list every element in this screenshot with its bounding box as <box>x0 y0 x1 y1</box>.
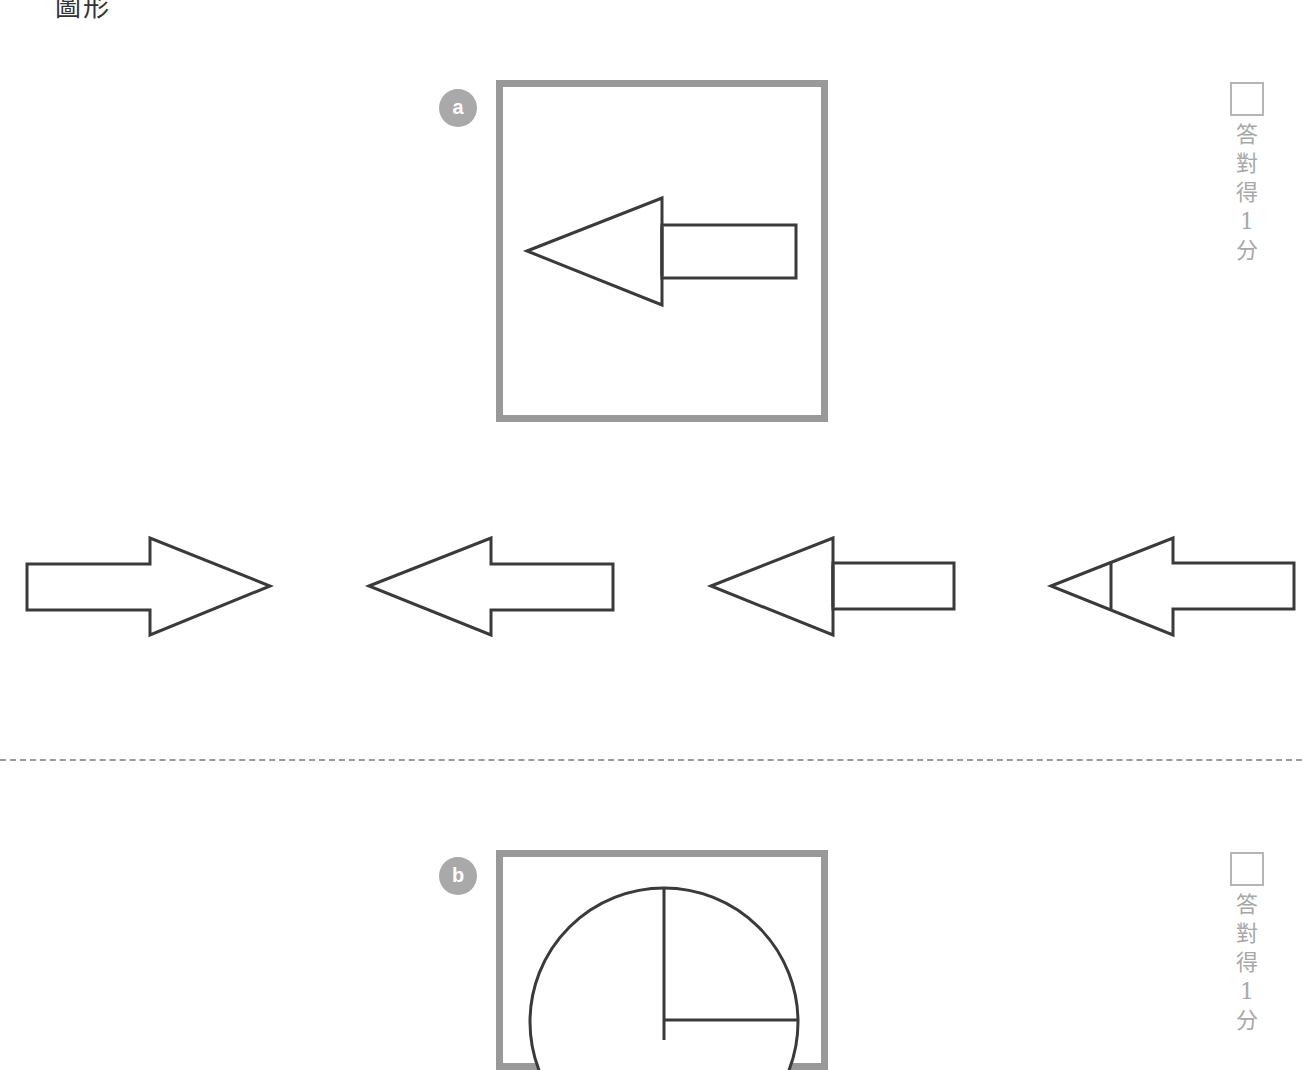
score-char: 分 <box>1227 1006 1267 1035</box>
score-char: 1 <box>1227 977 1267 1006</box>
score-box-b: 答 對 得 1 分 <box>1227 852 1267 1035</box>
score-char: 對 <box>1227 919 1267 948</box>
score-char: 答 <box>1227 890 1267 919</box>
score-char: 得 <box>1227 948 1267 977</box>
score-checkbox-b[interactable] <box>1230 852 1264 886</box>
